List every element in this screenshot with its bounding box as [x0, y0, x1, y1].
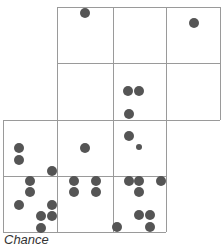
dot	[14, 143, 24, 153]
dot	[47, 200, 57, 210]
dot	[47, 211, 57, 221]
dot	[14, 200, 24, 210]
dot	[134, 210, 144, 220]
dot	[91, 187, 101, 197]
dot	[80, 143, 90, 153]
dot	[25, 187, 35, 197]
diagram-caption: Chance	[4, 233, 49, 247]
dot	[123, 86, 133, 96]
dot	[134, 187, 144, 197]
dot	[91, 176, 101, 186]
dot	[189, 18, 199, 28]
dot	[124, 176, 134, 186]
dot	[69, 176, 79, 186]
dot	[134, 86, 144, 96]
dot	[80, 8, 90, 18]
dot	[134, 176, 144, 186]
dot	[136, 144, 142, 150]
dot	[112, 222, 122, 232]
dot	[69, 187, 79, 197]
dot	[145, 222, 155, 232]
dot	[25, 176, 35, 186]
dot	[124, 131, 134, 141]
dot	[47, 166, 57, 176]
dot	[36, 211, 46, 221]
dot	[124, 109, 134, 119]
dot	[145, 210, 155, 220]
dot	[14, 155, 24, 165]
dot	[156, 176, 166, 186]
grid-lines	[3, 7, 221, 233]
